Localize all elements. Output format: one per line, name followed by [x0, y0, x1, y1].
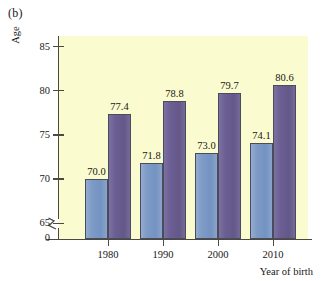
bar-2000-series-1: [195, 153, 218, 239]
x-tick-label-1980: 1980: [85, 249, 131, 260]
bar-1990-series-1: [140, 163, 163, 239]
bar-value-label: 77.4: [104, 101, 136, 112]
x-tick-label-1990: 1990: [140, 249, 186, 260]
bar-value-label: 80.6: [269, 72, 301, 83]
x-tick-mark: [218, 240, 219, 246]
bar-value-label: 79.7: [214, 80, 246, 91]
bar-2010-series-2: [273, 85, 296, 239]
x-tick-mark: [108, 240, 109, 246]
x-tick-label-2000: 2000: [195, 249, 241, 260]
bar-2010-series-1: [250, 143, 273, 239]
x-tick-label-2010: 2010: [250, 249, 296, 260]
bar-value-label: 78.8: [159, 88, 191, 99]
bar-1990-series-2: [163, 101, 186, 239]
x-tick-mark: [163, 240, 164, 246]
x-tick-mark: [273, 240, 274, 246]
x-axis-title: Year of birth: [260, 266, 313, 277]
bar-1980-series-1: [85, 179, 108, 239]
bars-layer: 70.077.471.878.873.079.774.180.6: [0, 36, 321, 239]
bar-1980-series-2: [108, 114, 131, 239]
bar-2000-series-2: [218, 93, 241, 239]
bar-chart-figure: (b) Age 85807570650 70.077.471.878.873.0…: [0, 0, 321, 281]
